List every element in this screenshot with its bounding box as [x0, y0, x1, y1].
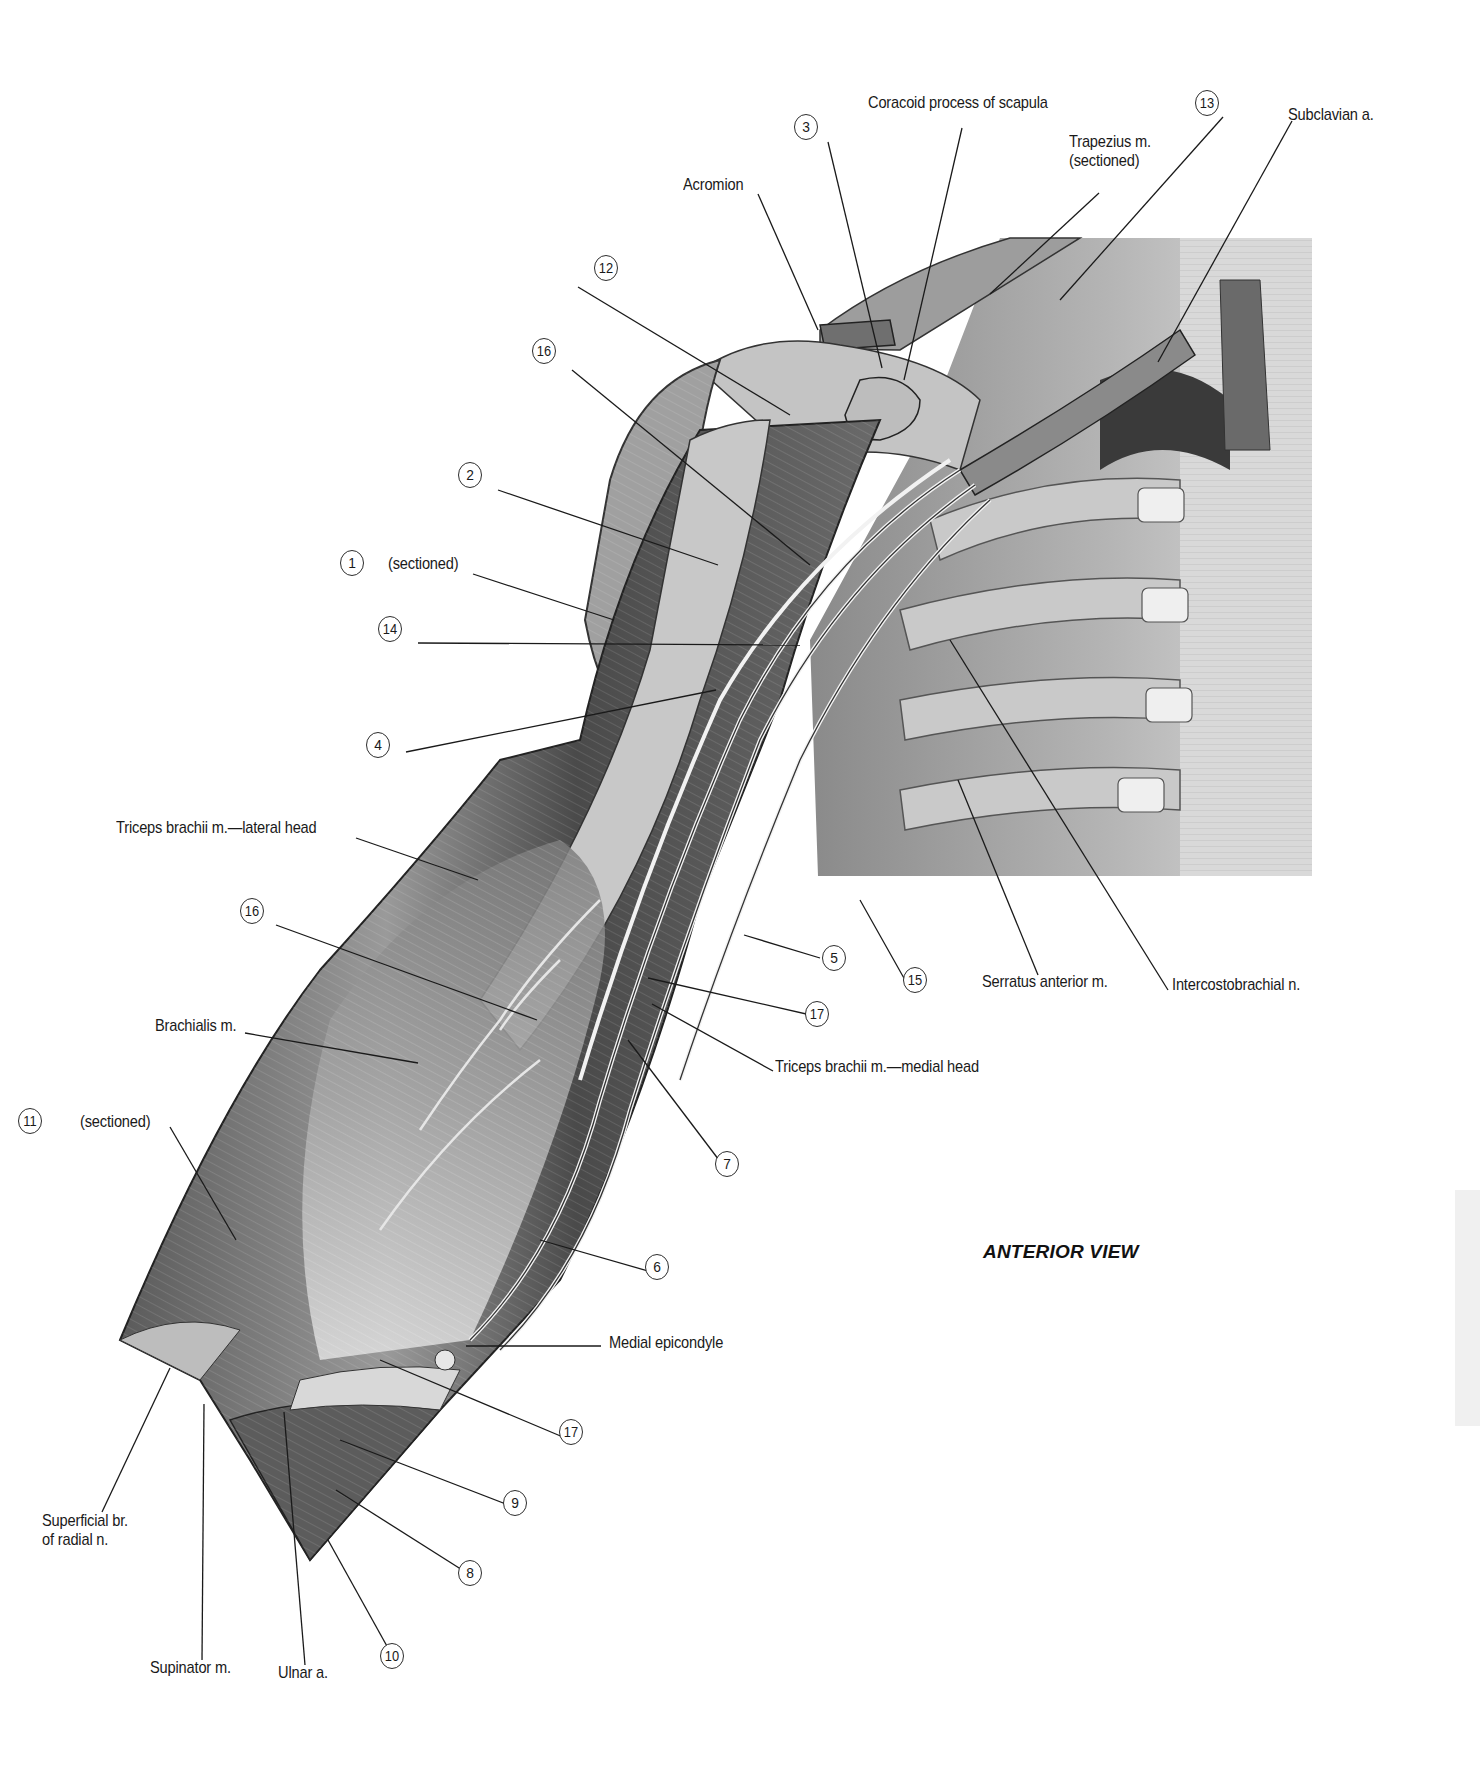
leader-line: [336, 1490, 467, 1573]
callout-17: 17: [805, 1001, 829, 1027]
leader-line: [648, 978, 815, 1016]
leader-line: [904, 128, 962, 380]
label-trapezius: Trapezius m. (sectioned): [1069, 132, 1151, 170]
label-supinator: Supinator m.: [150, 1658, 231, 1677]
leader-line: [328, 1540, 393, 1657]
upper-arm: [120, 420, 990, 1560]
callout-9: 9: [503, 1490, 527, 1516]
callout-3: 3: [794, 114, 818, 140]
label-intercostobrachial: Intercostobrachial n.: [1172, 975, 1300, 994]
leader-line: [758, 194, 818, 330]
view-title: ANTERIOR VIEW: [983, 1241, 1139, 1263]
callout-2: 2: [458, 462, 482, 488]
leader-line: [628, 1040, 725, 1168]
callout-16: 16: [532, 338, 556, 364]
callout-6: 6: [645, 1254, 669, 1280]
side-tab: [1455, 1190, 1480, 1426]
label-ulnar: Ulnar a.: [278, 1663, 328, 1682]
label-triceps-lateral: Triceps brachii m.—lateral head: [116, 818, 317, 837]
arm-illustration: [0, 0, 1480, 1781]
leader-line: [860, 900, 905, 980]
label-coracoid: Coracoid process of scapula: [868, 93, 1048, 112]
callout-11: 11: [18, 1108, 42, 1134]
leader-line: [102, 1368, 170, 1512]
label-subclavian: Subclavian a.: [1288, 105, 1374, 124]
callout-5: 5: [822, 945, 846, 971]
label-triceps-medial: Triceps brachii m.—medial head: [775, 1057, 979, 1076]
label-medial-epicondyle: Medial epicondyle: [609, 1333, 723, 1352]
leader-line: [652, 1004, 773, 1071]
label-sectioned-1: (sectioned): [388, 554, 458, 573]
label-acromion: Acromion: [683, 175, 743, 194]
label-serratus: Serratus anterior m.: [982, 972, 1108, 991]
callout-17: 17: [559, 1419, 583, 1445]
callout-12: 12: [594, 255, 618, 281]
label-superficial-radial: Superficial br. of radial n.: [42, 1511, 128, 1549]
callout-16: 16: [240, 898, 264, 924]
callout-14: 14: [378, 616, 402, 642]
callout-4: 4: [366, 732, 390, 758]
label-sectioned-11: (sectioned): [80, 1112, 150, 1131]
leader-line: [744, 935, 820, 958]
anatomy-figure: Coracoid process of scapulaSubclavian a.…: [0, 0, 1480, 1781]
callout-10: 10: [380, 1643, 404, 1669]
callout-13: 13: [1195, 90, 1219, 116]
leader-line: [202, 1404, 204, 1660]
callout-15: 15: [903, 967, 927, 993]
callout-1: 1: [340, 550, 364, 576]
label-brachialis: Brachialis m.: [155, 1016, 236, 1035]
callout-8: 8: [458, 1560, 482, 1586]
callout-7: 7: [715, 1151, 739, 1177]
